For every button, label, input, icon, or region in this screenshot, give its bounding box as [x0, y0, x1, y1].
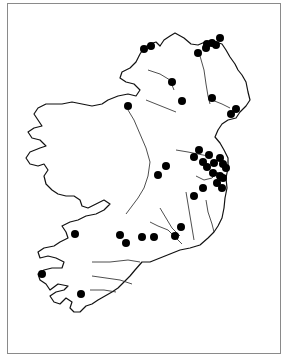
- site-markers: [38, 34, 240, 298]
- site-marker: [147, 42, 155, 50]
- site-marker: [216, 34, 224, 42]
- site-marker: [222, 164, 230, 172]
- site-marker: [205, 151, 213, 159]
- site-marker: [140, 45, 148, 53]
- site-marker: [168, 78, 176, 86]
- site-marker: [116, 231, 124, 239]
- site-marker: [209, 169, 217, 177]
- river-shannon: [126, 110, 150, 214]
- river-slaney: [206, 200, 214, 232]
- site-marker: [203, 163, 211, 171]
- ireland-map: [0, 0, 292, 362]
- site-marker: [218, 184, 226, 192]
- site-marker: [162, 162, 170, 170]
- site-marker: [124, 102, 132, 110]
- site-marker: [227, 110, 235, 118]
- site-marker: [199, 184, 207, 192]
- site-marker: [154, 171, 162, 179]
- site-marker: [190, 153, 198, 161]
- site-marker: [77, 290, 85, 298]
- site-marker: [122, 239, 130, 247]
- site-marker: [178, 97, 186, 105]
- site-marker: [190, 192, 198, 200]
- site-marker: [194, 49, 202, 57]
- site-marker: [177, 223, 185, 231]
- river-blackwater: [92, 260, 140, 262]
- site-marker: [208, 94, 216, 102]
- site-marker: [212, 41, 220, 49]
- river-erne: [146, 100, 176, 112]
- river-lagan: [212, 100, 230, 108]
- site-marker: [150, 233, 158, 241]
- river-bandon: [90, 290, 116, 292]
- site-marker: [38, 270, 46, 278]
- site-marker: [195, 146, 203, 154]
- site-marker: [71, 230, 79, 238]
- site-marker: [138, 233, 146, 241]
- site-marker: [171, 232, 179, 240]
- site-marker: [202, 44, 210, 52]
